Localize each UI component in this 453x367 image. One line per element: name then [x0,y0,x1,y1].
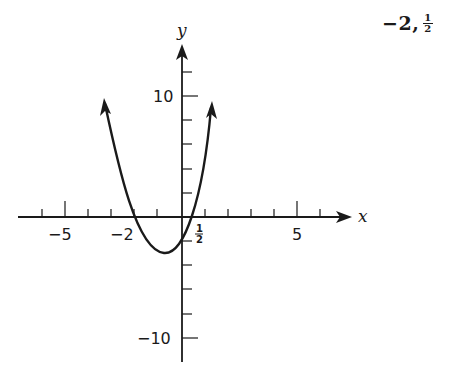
answer-prefix: −2, [382,12,419,34]
x-ticks [42,201,320,217]
x-tick-label-neg5: −5 [48,225,72,244]
answer-roots: −2,12 [382,12,433,36]
x-tick-label-5: 5 [292,225,302,244]
y-axis-label: y [176,20,187,40]
svg-text:1: 1 [196,223,203,234]
y-tick-label-10: 10 [153,87,173,106]
svg-text:2: 2 [196,234,203,245]
parabola-graph: x y −5 −2 5 1 2 10 −10 [0,0,453,367]
x-tick-label-neg2: −2 [110,225,134,244]
arrow-left-icon [100,98,111,116]
x-axis-label: x [358,206,368,226]
y-tick-label-neg10: −10 [137,329,171,348]
x-axis [18,211,352,223]
x-tick-label-half: 1 2 [195,223,203,245]
arrow-right-icon [206,101,217,119]
answer-fraction: 12 [423,13,432,34]
